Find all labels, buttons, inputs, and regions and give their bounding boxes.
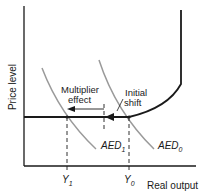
equilibrium-point-y0	[127, 115, 130, 118]
y-axis-label: Price level	[7, 64, 18, 110]
y1-tick-label: Y1	[62, 174, 73, 187]
aed1-label: AED1	[100, 140, 126, 153]
y0-tick-label: Y0	[124, 174, 135, 187]
ad-as-diagram: Price level Real output Multiplier effec…	[0, 0, 205, 196]
initial-shift-label-line2: shift	[124, 97, 142, 108]
initial-shift-arrowhead	[105, 113, 114, 121]
x-axis-label: Real output	[147, 180, 198, 191]
supply-curve	[24, 10, 181, 117]
aed0-label: AED0	[157, 140, 183, 153]
multiplier-arrowhead	[67, 106, 75, 112]
multiplier-label-line2: effect	[68, 94, 91, 105]
equilibrium-point-y1	[65, 115, 68, 118]
